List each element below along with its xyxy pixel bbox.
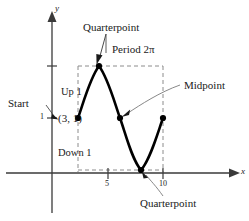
- leader-quarterpoint-top: [96, 34, 106, 65]
- label-up-one: Up 1: [61, 87, 82, 98]
- sine-curve-figure: Quarterpoint Period 2π Midpoint Quarterp…: [0, 0, 249, 221]
- label-period: Period 2π: [112, 44, 155, 55]
- point-minimum-quarterpoint: [138, 167, 144, 173]
- figure-canvas: [0, 0, 249, 221]
- label-start-point: (3, 1): [58, 113, 82, 124]
- leader-midpoint: [122, 85, 181, 117]
- label-quarterpoint-top: Quarterpoint: [83, 22, 139, 33]
- point-end: [160, 115, 166, 121]
- label-start: Start: [8, 98, 29, 109]
- label-midpoint: Midpoint: [184, 80, 225, 91]
- label-down-one: Down 1: [58, 148, 92, 159]
- x-axis-arrowhead: [229, 169, 240, 178]
- y-tick-label-1: 1: [40, 113, 44, 121]
- x-tick-label-5: 5: [105, 180, 109, 188]
- label-quarterpoint-bottom: Quarterpoint: [140, 198, 196, 209]
- x-tick-label-10: 10: [159, 180, 167, 188]
- y-axis-label: y: [55, 4, 59, 13]
- point-midpoint: [117, 115, 123, 121]
- x-axis-label: x: [241, 167, 245, 176]
